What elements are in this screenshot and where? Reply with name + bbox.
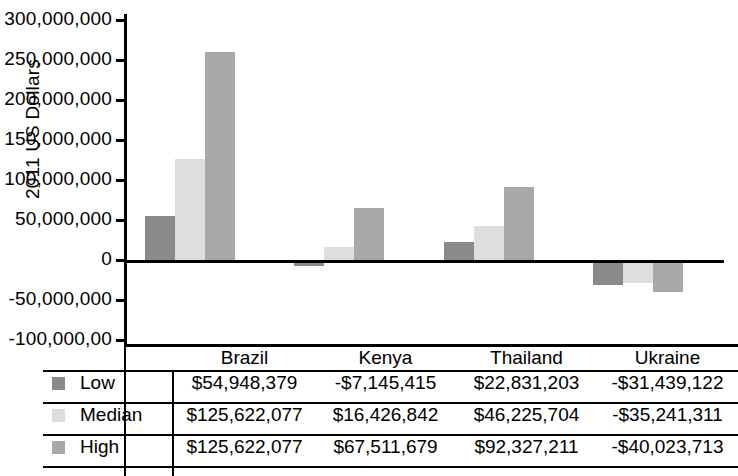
zero-baseline	[124, 260, 724, 263]
bar-brazil-low	[145, 216, 175, 260]
table-column-header-brazil: Brazil	[174, 347, 315, 369]
bar-thailand-median	[474, 226, 504, 260]
legend-swatch-median	[52, 409, 65, 422]
table-cell: -$35,241,311	[597, 404, 738, 426]
y-tick-label: -100,000,00	[8, 328, 112, 350]
table-cell: $16,426,842	[315, 404, 456, 426]
bar-ukraine-low	[593, 260, 623, 285]
table-cell: $92,327,211	[456, 436, 597, 458]
table-cell: $125,622,077	[174, 404, 315, 426]
bar-brazil-median	[175, 159, 205, 260]
bar-brazil-high	[205, 52, 235, 260]
table-column-header-thailand: Thailand	[456, 347, 597, 369]
legend-label-median: Median	[80, 404, 142, 426]
table-cell: -$40,023,713	[597, 436, 738, 458]
table-cell: -$7,145,415	[315, 372, 456, 394]
plot-area	[124, 14, 724, 346]
bar-thailand-low	[444, 242, 474, 260]
y-tick-label: 200,000,000	[4, 88, 112, 110]
table-cell: $54,948,379	[174, 372, 315, 394]
y-axis-tick-labels: 300,000,000250,000,000200,000,000150,000…	[0, 0, 112, 360]
bar-ukraine-high	[653, 260, 683, 292]
y-tick-label: 250,000,000	[4, 48, 112, 70]
y-tick-label: 100,000,000	[4, 168, 112, 190]
table-cell: -$31,439,122	[597, 372, 738, 394]
y-tick-label: 50,000,000	[15, 208, 112, 230]
chart-figure: 2011 US Dollars 300,000,000250,000,00020…	[0, 0, 738, 476]
bar-ukraine-median	[623, 260, 653, 283]
legend-swatch-high	[52, 441, 65, 454]
y-tick-label: -50,000,000	[8, 288, 112, 310]
legend-swatch-low	[52, 377, 65, 390]
table-rule	[43, 466, 738, 468]
bar-thailand-high	[504, 187, 534, 260]
y-tick-label: 0	[101, 248, 112, 270]
y-tick-label: 300,000,000	[4, 8, 112, 30]
table-cell: $22,831,203	[456, 372, 597, 394]
table-cell: $46,225,704	[456, 404, 597, 426]
table-column-header-ukraine: Ukraine	[597, 347, 738, 369]
legend-label-low: Low	[80, 372, 115, 394]
bar-kenya-high	[354, 208, 384, 260]
table-cell: $67,511,679	[315, 436, 456, 458]
y-tick-label: 150,000,000	[4, 128, 112, 150]
table-column-header-kenya: Kenya	[315, 347, 456, 369]
table-cell: $125,622,077	[174, 436, 315, 458]
legend-label-high: High	[80, 436, 119, 458]
bar-kenya-median	[324, 247, 354, 260]
